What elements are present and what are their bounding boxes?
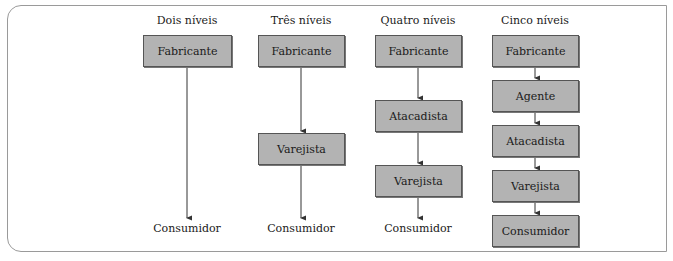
node-dois-consumidor: Consumidor [127,222,247,236]
node-cinco-fabricante: Fabricante [492,35,579,67]
node-dois-fabricante: Fabricante [143,35,232,67]
node-label: Fabricante [389,45,449,58]
node-quatro-varejista: Varejista [375,165,462,197]
node-label: Varejista [394,175,443,188]
node-quatro-consumidor: Consumidor [358,222,478,236]
node-label: Atacadista [389,110,448,123]
node-label: Varejista [511,180,560,193]
node-label: Agente [516,90,556,103]
node-cinco-atacadista: Atacadista [492,125,579,157]
node-label: Varejista [277,143,326,156]
node-label: Fabricante [272,45,332,58]
node-label: Consumidor [502,225,570,238]
node-tres-varejista: Varejista [258,133,345,165]
node-cinco-consumidor: Consumidor [492,215,579,247]
node-quatro-atacadista: Atacadista [375,100,462,132]
node-label: Atacadista [506,135,565,148]
node-label: Fabricante [158,45,218,58]
node-cinco-varejista: Varejista [492,170,579,202]
node-tres-fabricante: Fabricante [258,35,345,67]
node-quatro-fabricante: Fabricante [375,35,462,67]
node-label: Fabricante [506,45,566,58]
node-cinco-agente: Agente [492,80,579,112]
node-tres-consumidor: Consumidor [241,222,361,236]
